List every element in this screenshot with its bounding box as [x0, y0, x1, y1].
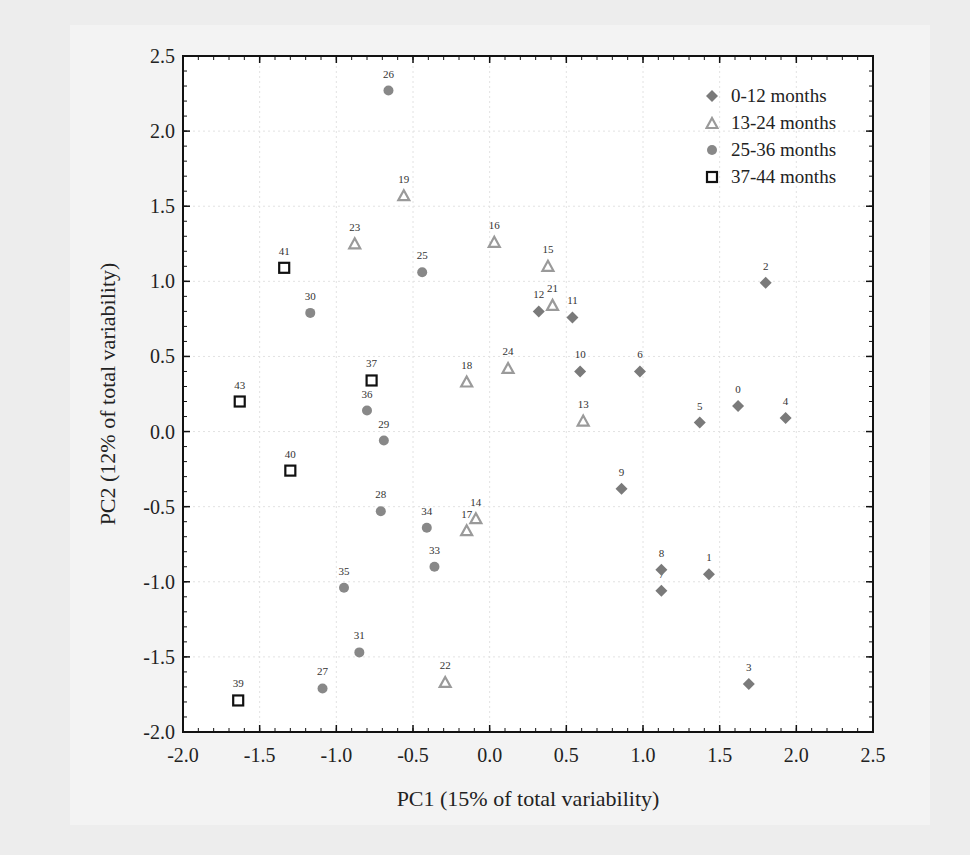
- point-label: 0: [735, 383, 741, 395]
- svg-text:2.0: 2.0: [784, 744, 809, 766]
- point-label: 14: [470, 496, 482, 508]
- point-label: 17: [461, 508, 473, 520]
- svg-text:0.0: 0.0: [150, 421, 175, 443]
- legend-label: 0-12 months: [731, 85, 827, 107]
- point-label: 10: [575, 348, 587, 360]
- point-label: 5: [697, 400, 703, 412]
- svg-text:2.5: 2.5: [150, 45, 175, 67]
- point-label: 8: [659, 547, 665, 559]
- svg-text:-0.5: -0.5: [143, 496, 175, 518]
- svg-text:1.5: 1.5: [707, 744, 732, 766]
- point-label: 6: [637, 348, 643, 360]
- point-label: 30: [305, 290, 317, 302]
- point-label: 16: [489, 219, 501, 231]
- legend-label: 25-36 months: [731, 139, 836, 161]
- point-label: 28: [375, 488, 387, 500]
- svg-text:-2.0: -2.0: [167, 744, 199, 766]
- point-label: 11: [567, 294, 578, 306]
- point-label: 29: [378, 418, 390, 430]
- circle-icon: [705, 140, 731, 160]
- point-label: 27: [317, 665, 329, 677]
- svg-text:0.0: 0.0: [477, 744, 502, 766]
- y-tick-labels: -2.0-1.5-1.0-0.50.00.51.01.52.02.5: [143, 45, 175, 743]
- legend-item-37-44: 37-44 months: [705, 163, 836, 190]
- svg-text:1.0: 1.0: [631, 744, 656, 766]
- point-label: 39: [233, 677, 245, 689]
- point-label: 12: [533, 288, 544, 300]
- point-label: 15: [542, 243, 554, 255]
- svg-text:0.5: 0.5: [150, 345, 175, 367]
- svg-text:-1.5: -1.5: [244, 744, 276, 766]
- triangle-icon: [705, 113, 731, 133]
- x-axis-label: PC1 (15% of total variability): [183, 786, 873, 812]
- point-label: 24: [503, 345, 515, 357]
- point-label: 40: [285, 448, 297, 460]
- point-label: 1: [706, 551, 712, 563]
- y-axis-label: PC2 (12% of total variability): [95, 263, 121, 526]
- legend: 0-12 months 13-24 months 25-36 months 37…: [705, 82, 836, 190]
- point-label: 35: [339, 565, 351, 577]
- square-icon: [705, 167, 731, 187]
- legend-item-25-36: 25-36 months: [705, 136, 836, 163]
- legend-item-13-24: 13-24 months: [705, 109, 836, 136]
- svg-text:2.0: 2.0: [150, 120, 175, 142]
- x-tick-labels: -2.0-1.5-1.0-0.50.00.51.01.52.02.5: [167, 744, 885, 766]
- point-label: 2: [763, 260, 769, 272]
- svg-text:-1.5: -1.5: [143, 646, 175, 668]
- svg-text:-0.5: -0.5: [397, 744, 429, 766]
- point-label: 41: [279, 245, 290, 257]
- point-label: 19: [398, 173, 410, 185]
- legend-label: 13-24 months: [731, 112, 836, 134]
- point-label: 34: [421, 505, 433, 517]
- legend-item-0-12: 0-12 months: [705, 82, 836, 109]
- legend-label: 37-44 months: [731, 166, 836, 188]
- point-label: 4: [783, 395, 789, 407]
- point-label: 9: [619, 466, 625, 478]
- point-label: 13: [578, 398, 590, 410]
- svg-text:-1.0: -1.0: [143, 571, 175, 593]
- point-label: 22: [440, 659, 451, 671]
- point-label: 26: [383, 68, 395, 80]
- svg-text:-1.0: -1.0: [320, 744, 352, 766]
- point-label: 21: [547, 282, 558, 294]
- point-label: 33: [429, 544, 441, 556]
- point-label: 31: [354, 629, 365, 641]
- svg-text:2.5: 2.5: [861, 744, 886, 766]
- svg-text:0.5: 0.5: [554, 744, 579, 766]
- point-label: 37: [366, 357, 378, 369]
- point-label: 23: [349, 221, 361, 233]
- point-label: 3: [746, 661, 752, 673]
- point-label: 43: [234, 379, 246, 391]
- point-label: 36: [362, 388, 374, 400]
- svg-text:1.0: 1.0: [150, 270, 175, 292]
- point-label: 18: [461, 359, 473, 371]
- diamond-icon: [705, 86, 731, 106]
- point-label: 25: [417, 249, 429, 261]
- svg-text:-2.0: -2.0: [143, 721, 175, 743]
- svg-text:1.5: 1.5: [150, 195, 175, 217]
